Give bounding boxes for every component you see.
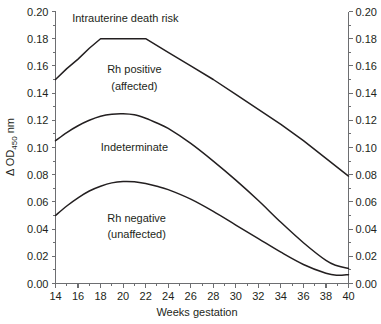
x-axis-tick-label: 34 [275, 290, 287, 302]
zone-rh-positive-line1: Rh positive [107, 63, 161, 75]
y-axis-left-tick-label: 0.20 [27, 6, 48, 18]
x-axis-tick-label: 38 [320, 290, 332, 302]
y-axis-right-tick-label: 0.02 [356, 250, 377, 262]
y-axis-left-tick-label: 0.08 [27, 169, 48, 181]
liley-chart-svg: 0.000.020.040.060.080.100.120.140.160.18… [0, 0, 381, 324]
y-axis-right-tick-label: 0.06 [356, 196, 377, 208]
x-axis-tick-label: 22 [140, 290, 152, 302]
y-axis-right-tick-label: 0.04 [356, 223, 377, 235]
y-axis-right-tick-label: 0.14 [356, 87, 377, 99]
x-axis-title: Weeks gestation [156, 306, 237, 318]
y-axis-left-tick-label: 0.10 [27, 142, 48, 154]
x-axis-tick-label: 36 [297, 290, 309, 302]
y-axis-left-tick-label: 0.16 [27, 60, 48, 72]
y-axis-right-tick-label: 0.18 [356, 33, 377, 45]
y-axis-right-tick-label: 0.08 [356, 169, 377, 181]
y-axis-right-tick-label: 0.12 [356, 114, 377, 126]
y-axis-right-tick-label: 0.10 [356, 142, 377, 154]
y-axis-left-tick-label: 0.00 [27, 278, 48, 290]
y-axis-right-tick-label: 0.00 [356, 278, 377, 290]
x-axis-tick-label: 24 [162, 290, 174, 302]
y-axis-right-tick-label: 0.20 [356, 6, 377, 18]
zone-rh-negative-line1: Rh negative [107, 212, 166, 224]
x-axis-tick-label: 16 [72, 290, 84, 302]
y-axis-left-tick-label: 0.12 [27, 114, 48, 126]
x-axis-tick-label: 14 [49, 290, 61, 302]
zone-indeterminate: Indeterminate [101, 141, 168, 153]
chart-background [0, 0, 381, 324]
y-axis-left-tick-label: 0.14 [27, 87, 48, 99]
x-axis-tick-label: 32 [252, 290, 264, 302]
x-axis-tick-label: 20 [117, 290, 129, 302]
liley-chart-container: 0.000.020.040.060.080.100.120.140.160.18… [0, 0, 381, 324]
y-axis-title-subscript: 450 [10, 136, 19, 150]
y-axis-left-tick-label: 0.02 [27, 250, 48, 262]
y-axis-title-base: Δ OD [4, 150, 16, 176]
x-axis-tick-label: 18 [94, 290, 106, 302]
x-axis-tick-label: 28 [207, 290, 219, 302]
zone-intrauterine-death: Intrauterine death risk [72, 12, 179, 24]
y-axis-left-tick-label: 0.18 [27, 33, 48, 45]
y-axis-left-tick-label: 0.04 [27, 223, 48, 235]
x-axis-tick-label: 40 [342, 290, 354, 302]
y-axis-right-tick-label: 0.16 [356, 60, 377, 72]
y-axis-title-tail: nm [4, 118, 16, 136]
zone-rh-positive-line2: (affected) [111, 80, 157, 92]
x-axis-tick-label: 30 [230, 290, 242, 302]
y-axis-left-tick-label: 0.06 [27, 196, 48, 208]
zone-rh-negative-line2: (unaffected) [107, 228, 166, 240]
x-axis-tick-label: 26 [185, 290, 197, 302]
